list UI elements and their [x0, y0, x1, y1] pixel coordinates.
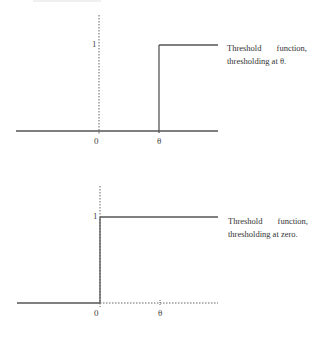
caption-word: Threshold	[227, 42, 261, 55]
threshold-at-zero-figure: 1 0 θ Threshold function, thresholding a…	[0, 170, 315, 338]
y-tick-1: 1	[93, 211, 98, 221]
x-tick-theta: θ	[157, 136, 161, 146]
x-tick-zero: 0	[94, 308, 99, 318]
caption: Threshold function, thresholding at zero…	[228, 215, 308, 241]
caption-word: function,	[277, 42, 307, 55]
x-tick-zero: 0	[94, 136, 99, 146]
x-tick-theta: θ	[158, 308, 162, 318]
caption-word: function,	[278, 215, 308, 228]
caption-line-2: thresholding at zero.	[228, 228, 308, 241]
caption-line-2: thresholding at θ.	[227, 55, 307, 68]
y-tick-1: 1	[92, 39, 97, 49]
caption: Threshold function, thresholding at θ.	[227, 42, 307, 68]
threshold-at-theta-figure: 1 0 θ Threshold function, thresholding a…	[0, 0, 315, 170]
caption-word: Threshold	[228, 215, 262, 228]
